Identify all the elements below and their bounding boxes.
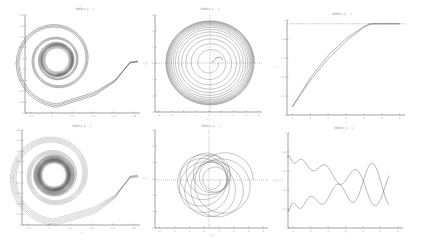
x-tick-label: 2 bbox=[233, 114, 235, 117]
y-tick-label: -1 bbox=[18, 224, 21, 227]
spiral-trajectory bbox=[15, 141, 138, 221]
x-axis-label: x bbox=[82, 119, 84, 122]
limit-cycle bbox=[43, 46, 71, 74]
x-tick-label: 0 bbox=[292, 117, 294, 120]
y-tick-label: 1 bbox=[152, 161, 154, 164]
x-tick-label: 0.4 bbox=[91, 115, 95, 118]
plot-title-4: SMD(x_1, ...) bbox=[72, 124, 91, 128]
y-tick-label: 0.6 bbox=[283, 170, 287, 173]
y-axis-label: y bbox=[11, 176, 13, 179]
y-tick-label: -0.8 bbox=[19, 101, 24, 104]
x-tick-label: 1 bbox=[310, 230, 312, 233]
x-tick-label: 6 bbox=[399, 117, 401, 120]
x-tick-label: 4 bbox=[263, 230, 265, 233]
x-tick-label: 0 bbox=[51, 115, 53, 118]
figure: -0.200.20.40.60.80.80.60.40.20-0.2-0.4-0… bbox=[0, 0, 422, 245]
x-tick-label: 2 bbox=[327, 117, 329, 120]
x-tick-label: -1 bbox=[195, 114, 198, 117]
y-tick-label: 1 bbox=[152, 46, 154, 49]
step-curve bbox=[292, 24, 399, 107]
y-tick-label: 0.6 bbox=[17, 139, 21, 142]
x-tick-label: 0 bbox=[203, 230, 205, 233]
limit-cycle bbox=[39, 160, 68, 189]
x-tick-label: 2 bbox=[327, 230, 329, 233]
x-tick-label: 0 bbox=[292, 230, 294, 233]
x-tick-label: 3 bbox=[345, 230, 347, 233]
x-tick-label: -4 bbox=[157, 114, 160, 117]
limit-cycle bbox=[40, 161, 68, 189]
y-tick-label: 0 bbox=[284, 114, 286, 117]
y-tick-label: -1 bbox=[151, 78, 154, 81]
plot-title-2: SMD(x_1, ...) bbox=[200, 7, 219, 11]
x-tick-label: 0 bbox=[208, 114, 210, 117]
limit-cycle bbox=[41, 44, 72, 75]
y-tick-label: 0.4 bbox=[282, 76, 286, 79]
x-tick-label: -0.2 bbox=[26, 227, 31, 230]
signal-x1 bbox=[288, 155, 389, 205]
x-tick-label: -1 bbox=[188, 230, 191, 233]
x-axis-label: t bbox=[345, 234, 346, 237]
y-tick-label: -2 bbox=[151, 210, 154, 213]
signal-x2 bbox=[288, 163, 389, 211]
y-tick-label: 0 bbox=[285, 227, 287, 230]
y-tick-label: 0.8 bbox=[20, 14, 24, 17]
x-axis-label: x bbox=[80, 231, 82, 234]
y-axis-label: x_1, x_2 bbox=[273, 179, 284, 182]
plot-title-6: SMD(x_1, ...) bbox=[334, 126, 353, 130]
x-tick-label: -3 bbox=[158, 230, 161, 233]
y-tick-label: 0.2 bbox=[17, 160, 21, 163]
x-tick-label: 0.2 bbox=[68, 227, 72, 230]
spiral-trajectory bbox=[12, 138, 138, 223]
y-tick-label: -1 bbox=[151, 194, 154, 197]
x-tick-label: 0.4 bbox=[90, 227, 94, 230]
limit-cycle bbox=[45, 48, 69, 72]
y-axis-label: x bbox=[276, 66, 278, 69]
plot-title-5: SMD(x_1, ...) bbox=[201, 124, 220, 128]
limit-cycle bbox=[42, 45, 71, 74]
x-tick-label: 3 bbox=[245, 114, 247, 117]
step-curve bbox=[292, 24, 399, 107]
x-tick-label: -0.2 bbox=[29, 115, 34, 118]
y-tick-label: 0 bbox=[22, 57, 24, 60]
y-tick-label: 0.4 bbox=[20, 36, 24, 39]
x-tick-label: -3 bbox=[170, 114, 173, 117]
spiral-trajectory bbox=[18, 26, 138, 106]
y-tick-label: -0.8 bbox=[16, 213, 21, 216]
x-tick-label: 3 bbox=[345, 117, 347, 120]
y-tick-label: 0.4 bbox=[283, 189, 287, 192]
limit-cycle bbox=[42, 163, 66, 187]
x-tick-label: -2 bbox=[182, 114, 185, 117]
y-tick-label: 0 bbox=[19, 171, 21, 174]
y-tick-label: 1 bbox=[285, 132, 287, 135]
y-tick-label: 2 bbox=[152, 30, 154, 33]
spiral-trajectory bbox=[16, 142, 138, 219]
x-tick-label: 5 bbox=[380, 230, 382, 233]
x-tick-label: 1 bbox=[218, 230, 220, 233]
y-tick-label: 3 bbox=[152, 14, 154, 17]
y-tick-label: 0.2 bbox=[282, 95, 286, 98]
y-tick-label: 0.8 bbox=[283, 151, 287, 154]
y-tick-label: 2 bbox=[152, 145, 154, 148]
y-axis-label: x_2 bbox=[143, 177, 148, 180]
plot-title-3: SMD(x_1, ...) bbox=[332, 12, 351, 16]
x-tick-label: 4 bbox=[363, 117, 365, 120]
y-tick-label: -3 bbox=[151, 227, 154, 230]
x-tick-label: 0.6 bbox=[111, 227, 115, 230]
x-tick-label: 2 bbox=[233, 230, 235, 233]
y-tick-label: 0.8 bbox=[282, 38, 286, 41]
x-tick-label: 0 bbox=[49, 227, 51, 230]
y-tick-label: 0.2 bbox=[283, 208, 287, 211]
x-axis-label: x_1 bbox=[209, 234, 214, 237]
x-tick-label: 4 bbox=[362, 230, 364, 233]
y-tick-label: 0 bbox=[152, 62, 154, 65]
figure-canvas: -0.200.20.40.60.80.80.60.40.20-0.2-0.4-0… bbox=[0, 0, 422, 245]
plot-title-1: SMD(x_1, ...) bbox=[75, 7, 94, 11]
x-tick-label: 0.2 bbox=[70, 115, 74, 118]
x-tick-label: 5 bbox=[381, 117, 383, 120]
y-tick-label: 0.6 bbox=[282, 57, 286, 60]
phase-portrait bbox=[178, 153, 254, 217]
y-tick-label: -2 bbox=[151, 95, 154, 98]
x-tick-label: 4 bbox=[257, 114, 259, 117]
limit-cycle bbox=[41, 162, 67, 188]
y-tick-label: 0 bbox=[152, 178, 154, 181]
